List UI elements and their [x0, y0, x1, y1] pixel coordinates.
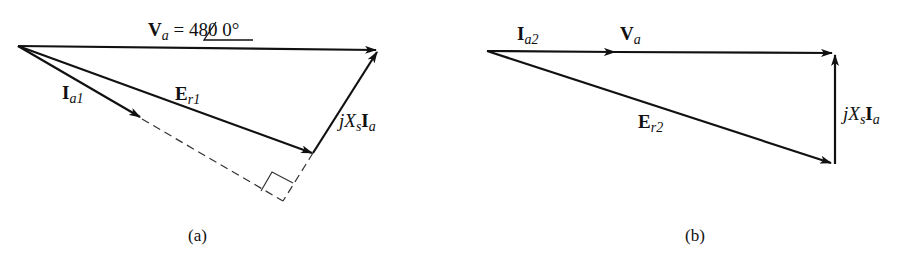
er1-label: Er1: [175, 83, 200, 107]
jxsia-phasor-a: [313, 52, 377, 153]
er2-phasor: [487, 51, 831, 163]
caption-b: (b): [685, 226, 705, 245]
right-angle-marker: [261, 172, 293, 191]
ia1-phasor: [18, 46, 140, 117]
ia1-label: Ia1: [62, 82, 83, 106]
er2-label: Er2: [638, 111, 663, 135]
va-phasor-a: [18, 46, 376, 50]
ia2-label: Ia2: [517, 23, 538, 47]
va-phasor-b: [615, 52, 832, 53]
caption-a: (a): [188, 226, 207, 245]
phasor-diagram: Va = 480 0° Ia1 Er1 jXsIa (a) Ia2 Va: [0, 0, 899, 262]
jxsia-label-b: jXsIa: [840, 103, 880, 127]
jxsia-label-a: jXsIa: [336, 110, 376, 134]
perpendicular-dashed: [283, 153, 313, 201]
panel-a: Va = 480 0° Ia1 Er1 jXsIa (a): [18, 19, 377, 245]
ia2-phasor: [487, 51, 615, 52]
va-label-b: Va: [620, 23, 641, 47]
panel-b: Ia2 Va Er2 jXsIa (b): [487, 23, 880, 245]
